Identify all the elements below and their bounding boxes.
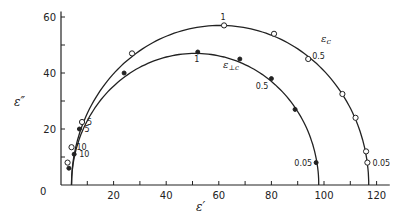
- y-tick-label: 60: [43, 12, 56, 23]
- point-frequency-label: 0.5: [312, 52, 325, 61]
- y-axis-label: ε″: [14, 95, 25, 109]
- open-circle-marker: [65, 160, 70, 165]
- open-circle-marker: [271, 31, 276, 36]
- open-circle-marker: [340, 91, 345, 96]
- axes: 20406080100120204060: [43, 11, 389, 201]
- x-tick-label: 60: [212, 190, 225, 201]
- open-circle-marker: [129, 51, 134, 56]
- x-tick-label: 80: [265, 190, 278, 201]
- curves: [72, 25, 369, 185]
- point-frequency-label: 0.05: [372, 159, 390, 168]
- x-tick-label: 100: [314, 190, 333, 201]
- open-circle-marker: [365, 160, 370, 165]
- origin-label: 0: [40, 186, 46, 197]
- x-tick-label: 40: [160, 190, 173, 201]
- open-circle-marker: [363, 149, 368, 154]
- filled-circle-marker: [293, 107, 297, 111]
- open-circle-marker: [353, 115, 358, 120]
- arc-curve-0: [72, 25, 369, 185]
- filled-circle-marker: [72, 152, 76, 156]
- x-axis-label: ε′: [196, 200, 205, 214]
- point-frequency-label: 10: [79, 150, 89, 159]
- x-tick-label: 120: [367, 190, 386, 201]
- point-frequency-label: 5: [84, 125, 89, 134]
- filled-circle-marker: [196, 50, 200, 54]
- x-tick-label: 20: [107, 190, 120, 201]
- curve-label-eps-c: εc: [321, 33, 331, 46]
- point-labels: 10510.50.0510510.50.05: [77, 13, 391, 167]
- filled-circle-marker: [77, 127, 81, 131]
- data-points: [65, 23, 370, 170]
- open-circle-marker: [69, 145, 74, 150]
- y-tick-label: 40: [43, 68, 56, 79]
- point-frequency-label: 0.5: [256, 82, 269, 91]
- y-tick-label: 20: [43, 124, 56, 135]
- filled-circle-marker: [238, 57, 242, 61]
- point-frequency-label: 1: [221, 13, 226, 22]
- filled-circle-marker: [122, 71, 126, 75]
- open-circle-marker: [79, 119, 84, 124]
- open-circle-marker: [221, 23, 226, 28]
- point-frequency-label: 0.05: [294, 159, 312, 168]
- filled-circle-marker: [314, 161, 318, 165]
- open-circle-marker: [306, 56, 311, 61]
- point-frequency-label: 1: [194, 55, 199, 64]
- filled-circle-marker: [269, 77, 273, 81]
- filled-circle-marker: [67, 166, 71, 170]
- arc-curve-1: [72, 53, 319, 185]
- cole-cole-plot: 20406080100120204060 10510.50.0510510.50…: [0, 0, 403, 223]
